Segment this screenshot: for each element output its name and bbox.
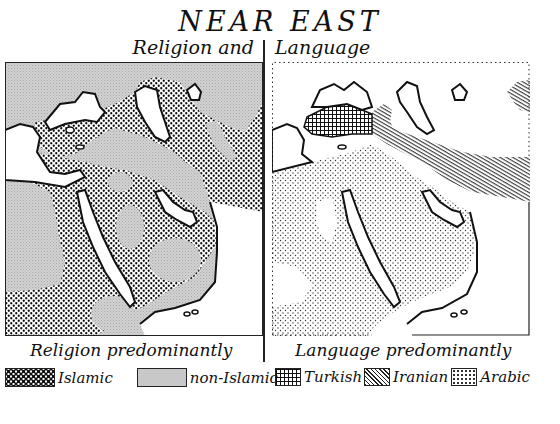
legend-label-non-islamic: non-Islamic — [190, 369, 278, 387]
legend-label-islamic: Islamic — [58, 369, 113, 387]
map-title: NEAR EAST — [0, 6, 560, 37]
language-legend-title: Language predominantly — [295, 340, 511, 360]
iranian-swatch — [364, 368, 390, 386]
islamic-swatch — [5, 368, 55, 387]
language-map — [272, 62, 530, 336]
language-legend: Turkish Iranian Arabic — [275, 368, 544, 386]
non-islamic-swatch — [137, 368, 187, 387]
subtitle-language: Language — [275, 36, 370, 58]
legend-label-iranian: Iranian — [393, 368, 448, 386]
religion-map — [5, 62, 263, 336]
subtitle-religion: Religion and — [133, 36, 254, 58]
religion-legend-title: Religion predominantly — [30, 340, 232, 360]
legend-label-turkish: Turkish — [304, 368, 362, 386]
turkish-swatch — [275, 368, 301, 386]
religion-legend: Islamic non-Islamic — [5, 368, 292, 387]
legend-label-arabic: Arabic — [480, 368, 530, 386]
arabic-swatch — [451, 368, 477, 386]
panel-divider — [263, 40, 265, 362]
